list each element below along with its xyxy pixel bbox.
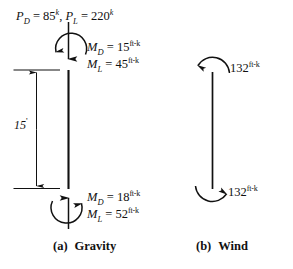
bottom-live-moment-value: 52 (115, 207, 128, 221)
top-live-moment-symbol: M (87, 57, 97, 71)
top-live-moment-equals: = (102, 57, 115, 71)
wind-top-moment-value: 132 (230, 61, 249, 75)
caption-b-name: Wind (211, 239, 248, 253)
axial-live-unit: k (110, 8, 114, 17)
bottom-dead-moment-unit: ft-k (129, 189, 140, 198)
top-dead-moment-value: 15 (117, 40, 130, 54)
caption-a-name: Gravity (68, 239, 117, 253)
story-height-unit: ' (26, 116, 28, 126)
caption-panel-a: (a)Gravity (53, 240, 116, 253)
bottom-live-moment-symbol: M (87, 207, 97, 221)
caption-a-index: (a) (53, 239, 68, 253)
gravity-top-moment-arc (56, 33, 87, 54)
axial-dead-equals: = (30, 9, 43, 23)
gravity-top-dead-moment-label: MD = 15ft-k (87, 40, 140, 56)
axial-live-value: 220 (91, 9, 110, 23)
wind-top-moment-arc (198, 57, 230, 73)
bottom-live-moment-unit: ft-k (128, 206, 139, 215)
gravity-top-live-moment-label: ML = 45ft-k (87, 57, 139, 73)
wind-top-moment-label: 132ft-k (230, 61, 260, 75)
gravity-bottom-moment-arc (51, 201, 82, 223)
story-height-value: 15 (14, 118, 26, 132)
wind-top-moment-unit: ft-k (249, 60, 260, 69)
gravity-bottom-dead-moment-label: MD = 18ft-k (87, 190, 140, 206)
wind-bottom-moment-value: 132 (228, 185, 247, 199)
top-live-moment-value: 45 (115, 57, 128, 71)
wind-bottom-moment-unit: ft-k (247, 184, 258, 193)
bottom-dead-moment-symbol: M (87, 190, 97, 204)
story-height-dimension-label: 15' (14, 117, 28, 131)
figure-vector-canvas (0, 0, 293, 269)
bottom-live-moment-equals: = (102, 207, 115, 221)
top-dead-moment-unit: ft-k (129, 39, 140, 48)
caption-b-index: (b) (196, 239, 211, 253)
top-dead-moment-symbol: M (87, 40, 97, 54)
structural-loading-figure: PD = 85k, PL = 220k MD = 15ft-k ML = 45f… (0, 0, 293, 269)
wind-bottom-moment-label: 132ft-k (228, 185, 258, 199)
top-dead-moment-equals: = (104, 40, 117, 54)
axial-dead-symbol: P (16, 9, 24, 23)
axial-live-equals: = (78, 9, 91, 23)
wind-bottom-moment-arc (196, 186, 227, 201)
top-live-moment-unit: ft-k (128, 56, 139, 65)
bottom-dead-moment-equals: = (104, 190, 117, 204)
axial-live-symbol: P (65, 9, 73, 23)
axial-load-label: PD = 85k, PL = 220k (16, 9, 113, 25)
bottom-dead-moment-value: 18 (117, 190, 130, 204)
axial-dead-value: 85 (43, 9, 56, 23)
gravity-bottom-live-moment-label: ML = 52ft-k (87, 207, 139, 223)
caption-panel-b: (b)Wind (196, 240, 248, 253)
